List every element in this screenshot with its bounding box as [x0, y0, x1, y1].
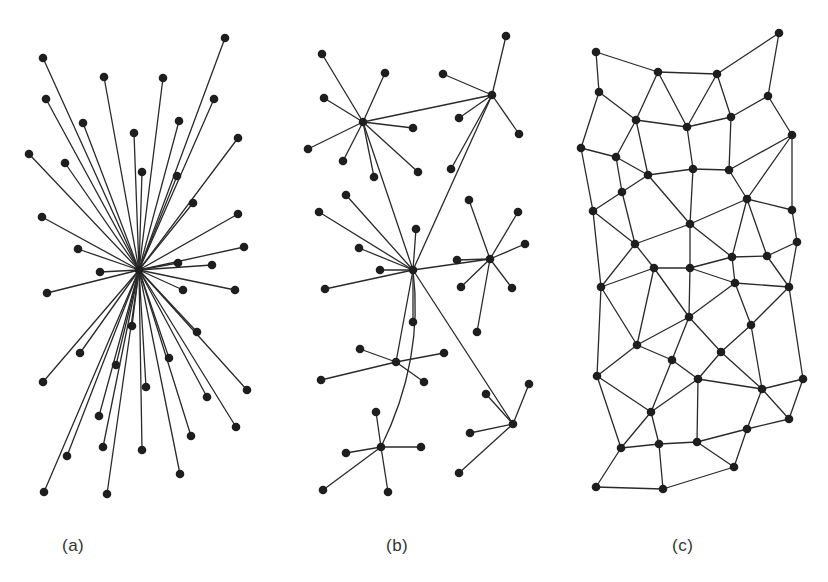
edge [621, 412, 651, 448]
edge [689, 317, 721, 352]
edge [690, 257, 732, 268]
edge [672, 317, 689, 360]
edge [636, 72, 658, 120]
edge [581, 148, 593, 211]
leaf-node [234, 210, 243, 219]
leaf-node [304, 145, 313, 154]
edge [396, 353, 444, 362]
mesh-node [713, 70, 722, 79]
mesh-node [685, 313, 694, 322]
hub-node [486, 255, 495, 264]
edge [687, 117, 731, 127]
mesh-node [785, 283, 794, 292]
leaf-node [320, 94, 329, 103]
leaf-node [79, 119, 88, 128]
edge [735, 283, 751, 325]
panel-label-c: (c) [672, 536, 693, 556]
mesh-node [775, 29, 784, 38]
edge [747, 135, 792, 199]
edge [698, 352, 721, 379]
panel-label-b: (b) [386, 536, 408, 556]
leaf-node [319, 486, 328, 495]
leaf-node [372, 408, 381, 417]
leaf-node [138, 446, 147, 455]
leaf-node [210, 95, 219, 104]
mesh-node [694, 375, 703, 384]
edge [747, 199, 792, 210]
edge [492, 95, 519, 134]
edge [29, 154, 139, 270]
leaf-node [339, 157, 348, 166]
leaf-node [515, 130, 524, 139]
leaf-node [231, 286, 240, 295]
edge [443, 74, 492, 95]
edge [396, 270, 413, 362]
mesh-node [659, 485, 668, 494]
leaf-node [525, 380, 534, 389]
edge [363, 122, 413, 128]
panel-c-distributed-network [577, 29, 808, 494]
edge [658, 72, 717, 74]
mesh-node [683, 123, 692, 132]
edge [43, 270, 139, 382]
leaf-node [342, 449, 351, 458]
edge [636, 120, 648, 175]
leaf-node [376, 266, 385, 275]
edge [637, 345, 672, 360]
edge [413, 270, 513, 424]
edge [104, 77, 139, 270]
edge [659, 442, 697, 444]
edge [107, 270, 139, 494]
edge [581, 148, 616, 157]
edge [139, 38, 225, 270]
edge [139, 270, 236, 427]
leaf-node [76, 349, 85, 358]
edge [616, 157, 648, 175]
leaf-node [39, 54, 48, 63]
leaf-node [420, 378, 429, 387]
edge [346, 447, 381, 453]
panel-a-centralized-network [25, 34, 252, 499]
leaf-node [208, 261, 217, 270]
mesh-node [612, 153, 621, 162]
mesh-node [793, 238, 802, 247]
leaf-node [455, 469, 464, 478]
leaf-node [38, 213, 47, 222]
edge [616, 157, 622, 192]
edge [689, 283, 735, 317]
edge [325, 270, 413, 289]
leaf-node [318, 50, 327, 59]
mesh-node [763, 252, 772, 261]
hub-node [377, 443, 386, 452]
edge [792, 210, 797, 242]
edge [324, 98, 363, 122]
edge [690, 169, 693, 224]
edge [762, 389, 789, 419]
leaf-node [414, 168, 423, 177]
edge [139, 121, 179, 270]
mesh-node [577, 144, 586, 153]
edge [593, 211, 601, 287]
panel-label-a: (a) [62, 536, 84, 556]
edge [789, 242, 797, 287]
edge [789, 379, 803, 419]
leaf-node [409, 124, 418, 133]
leaf-node [315, 208, 324, 217]
edge [767, 242, 797, 256]
leaf-node [103, 490, 112, 499]
edge [322, 54, 363, 122]
leaf-node [96, 268, 105, 277]
mesh-node [655, 440, 664, 449]
leaf-node [173, 172, 182, 181]
edge [697, 442, 734, 467]
leaf-node [508, 284, 517, 293]
edge [413, 95, 492, 270]
edge [648, 169, 693, 175]
mesh-node [647, 408, 656, 417]
edge [43, 58, 139, 270]
leaf-node [321, 285, 330, 294]
leaf-node [521, 240, 530, 249]
edge [663, 467, 734, 489]
network-topology-figure [0, 0, 828, 582]
leaf-node [232, 423, 241, 432]
